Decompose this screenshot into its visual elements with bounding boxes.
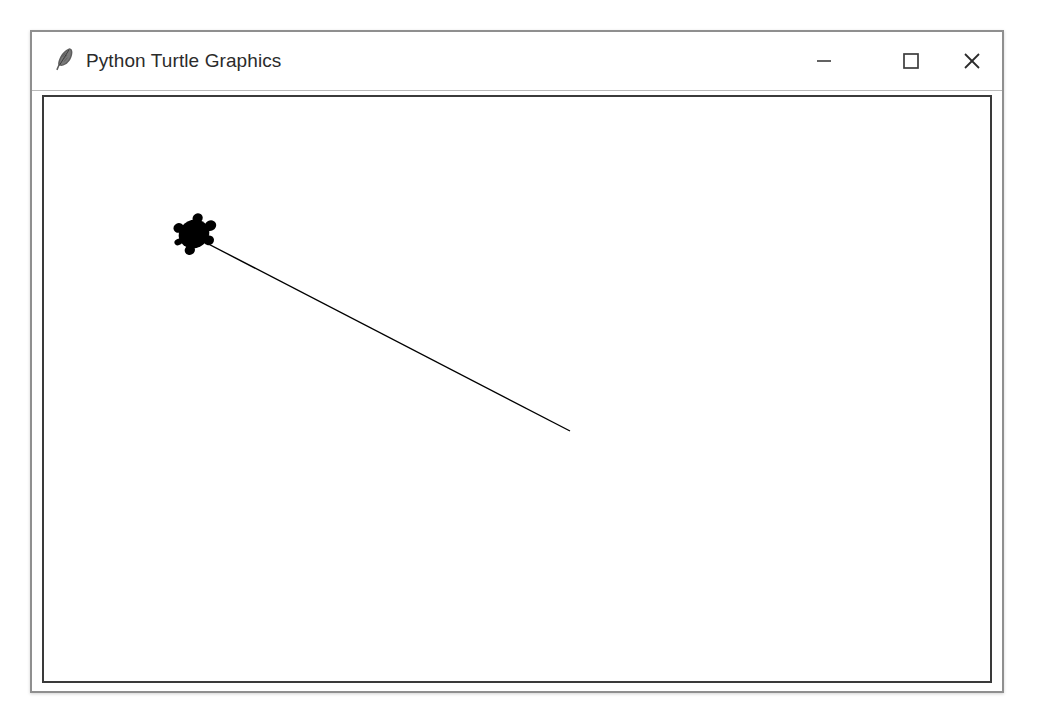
turtle-graphics-window[interactable]: Python Turtle Graphics Minimize Maximize bbox=[30, 30, 1004, 693]
desktop-background: Python Turtle Graphics Minimize Maximize bbox=[0, 0, 1042, 717]
close-button[interactable]: Close bbox=[941, 32, 1003, 90]
canvas-background bbox=[44, 97, 990, 681]
turtle-canvas[interactable] bbox=[44, 97, 990, 681]
maximize-button[interactable]: Maximize bbox=[880, 32, 942, 90]
window-title: Python Turtle Graphics bbox=[86, 47, 281, 75]
minimize-icon bbox=[814, 51, 834, 71]
close-icon bbox=[960, 49, 984, 73]
feather-icon bbox=[52, 45, 76, 73]
minimize-button[interactable]: Minimize bbox=[793, 32, 855, 90]
maximize-icon bbox=[900, 50, 922, 72]
title-bar[interactable]: Python Turtle Graphics Minimize Maximize bbox=[32, 32, 1002, 91]
turtle-canvas-border bbox=[42, 95, 992, 683]
